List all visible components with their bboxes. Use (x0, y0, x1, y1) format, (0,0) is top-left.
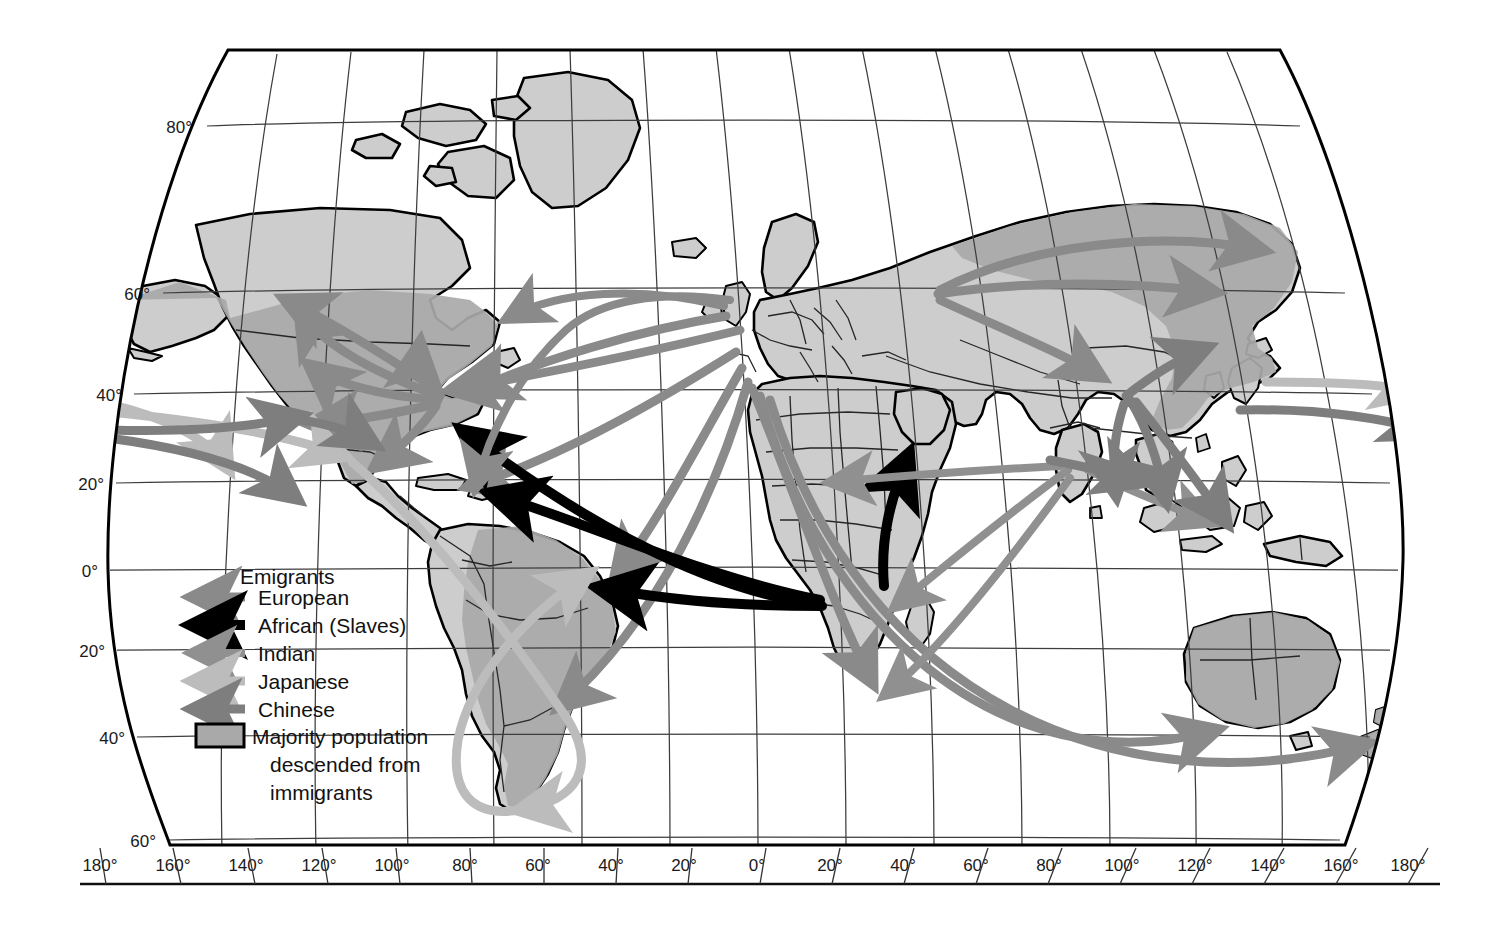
legend-label-majority-line1: Majority population (252, 725, 428, 748)
lon-label-m120: 120° (301, 856, 336, 875)
lat-label-m40: 40° (99, 729, 125, 748)
lon-label-m180: 180° (82, 856, 117, 875)
lon-label-140: 140° (1250, 856, 1285, 875)
canvas-background (0, 0, 1491, 945)
lon-label-20: 20° (817, 856, 843, 875)
lon-label-m40: 40° (598, 856, 624, 875)
lat-label-80: 80° (166, 118, 192, 137)
lat-label-m20: 20° (79, 642, 105, 661)
legend-label-majority-line3: immigrants (270, 781, 373, 804)
legend-area-swatch (196, 724, 244, 747)
lon-label-40: 40° (890, 856, 916, 875)
lon-label-180: 180° (1390, 856, 1425, 875)
legend-label-european: European (258, 586, 349, 609)
map-figure: 80° 60° 40° 20° 0° 20° 40° 60° 180° 160°… (0, 0, 1491, 945)
lat-label-m60: 60° (130, 832, 156, 851)
legend-label-majority-line2: descended from (270, 753, 421, 776)
lat-label-60: 60° (124, 285, 150, 304)
world-map-svg: 80° 60° 40° 20° 0° 20° 40° 60° 180° 160°… (0, 0, 1491, 945)
legend-label-japanese: Japanese (258, 670, 349, 693)
lon-label-160: 160° (1323, 856, 1358, 875)
legend-title: Emigrants (240, 565, 335, 588)
lon-label-m100: 100° (374, 856, 409, 875)
lat-label-40: 40° (96, 386, 122, 405)
lat-label-0: 0° (82, 562, 98, 581)
legend-label-chinese: Chinese (258, 698, 335, 721)
lon-label-m160: 160° (155, 856, 190, 875)
legend-label-african: African (Slaves) (258, 614, 406, 637)
lon-label-m140: 140° (228, 856, 263, 875)
lon-label-100: 100° (1104, 856, 1139, 875)
lon-label-m60: 60° (525, 856, 551, 875)
lon-label-m20: 20° (671, 856, 697, 875)
lon-label-120: 120° (1177, 856, 1212, 875)
lat-label-20: 20° (78, 475, 104, 494)
lon-label-m80: 80° (452, 856, 478, 875)
legend-label-indian: Indian (258, 642, 315, 665)
